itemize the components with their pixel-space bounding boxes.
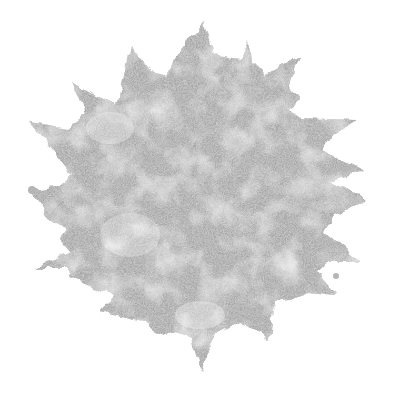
light-patch-bottom bbox=[175, 301, 225, 329]
sun-starburst-image bbox=[0, 0, 401, 397]
stray-speck bbox=[28, 186, 36, 194]
stray-speck bbox=[333, 273, 339, 279]
light-patch-center bbox=[100, 213, 160, 257]
light-patch-upper-left bbox=[86, 112, 134, 144]
